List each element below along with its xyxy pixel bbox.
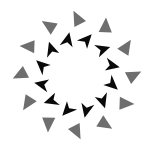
figure-container [0, 0, 153, 146]
concentric-arrow-illusion-figure [0, 0, 153, 146]
